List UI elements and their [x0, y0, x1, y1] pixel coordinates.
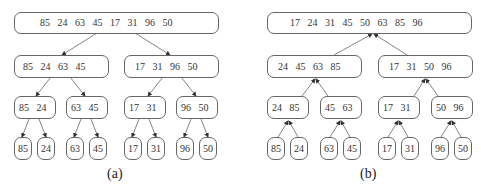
node-b-leaf-0: 85	[267, 137, 285, 160]
node-b-leaf-7: 50	[454, 137, 472, 160]
node-a-root: 85 24 63 45 17 31 96 50	[14, 12, 219, 34]
node-b-leaf-1: 24	[290, 137, 308, 160]
node-a-leaf-5: 31	[147, 137, 165, 160]
node-b-l1-right: 17 31 50 96	[378, 55, 473, 78]
node-b-l2-2: 17 31	[378, 96, 420, 119]
node-b-root: 17 24 31 45 50 63 85 96	[267, 12, 472, 34]
caption-a: (a)	[107, 166, 123, 182]
node-a-leaf-7: 50	[199, 137, 217, 160]
node-a-leaf-2: 63	[66, 137, 84, 160]
node-a-leaf-3: 45	[89, 137, 107, 160]
node-b-l2-3: 50 96	[431, 96, 473, 119]
node-a-l2-2: 17 31	[124, 96, 166, 119]
node-a-leaf-0: 85	[14, 137, 32, 160]
node-b-leaf-6: 96	[431, 137, 449, 160]
node-a-l2-1: 63 45	[66, 96, 108, 119]
node-a-l1-left: 85 24 63 45	[14, 55, 109, 78]
node-a-leaf-6: 96	[176, 137, 194, 160]
node-a-l2-0: 85 24	[14, 96, 56, 119]
node-b-l2-0: 24 85	[267, 96, 309, 119]
node-b-leaf-2: 63	[320, 137, 338, 160]
node-a-l2-3: 96 50	[176, 96, 218, 119]
caption-b: (b)	[360, 166, 376, 182]
node-b-leaf-3: 45	[343, 137, 361, 160]
node-a-l1-right: 17 31 96 50	[124, 55, 219, 78]
node-a-leaf-1: 24	[37, 137, 55, 160]
node-a-leaf-4: 17	[124, 137, 142, 160]
node-b-leaf-4: 17	[378, 137, 396, 160]
node-b-l2-1: 45 63	[320, 96, 362, 119]
node-b-l1-left: 24 45 63 85	[267, 55, 362, 78]
node-b-leaf-5: 31	[401, 137, 419, 160]
